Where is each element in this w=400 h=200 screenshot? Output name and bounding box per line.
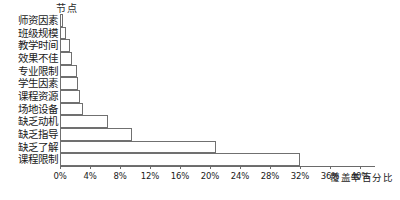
category-label: 班级规模: [2, 27, 60, 40]
bar: [60, 39, 70, 52]
x-tick-mark: [300, 166, 301, 169]
x-tick-label: 8%: [113, 171, 126, 181]
category-label: 课程资源: [2, 90, 60, 103]
category-label: 缺乏了解: [2, 141, 60, 154]
x-tick-mark: [330, 166, 331, 169]
x-tick-mark: [120, 166, 121, 169]
bar: [60, 27, 66, 40]
bar: [60, 153, 300, 166]
category-label: 课程限制: [2, 153, 60, 166]
category-label: 教学时间: [2, 39, 60, 52]
x-tick-mark: [210, 166, 211, 169]
bar: [60, 103, 83, 116]
bar: [60, 115, 108, 128]
x-tick-mark: [150, 166, 151, 169]
bar: [60, 52, 72, 65]
bar: [60, 77, 78, 90]
category-label: 场地设备: [2, 103, 60, 116]
x-tick-mark: [360, 166, 361, 169]
x-tick-label: 24%: [231, 171, 249, 181]
bar: [60, 65, 77, 78]
category-label: 师资因素: [2, 14, 60, 27]
bar: [60, 14, 63, 27]
category-label: 缺乏指导: [2, 128, 60, 141]
x-tick-mark: [270, 166, 271, 169]
x-tick-label: 32%: [291, 171, 309, 181]
x-axis-title: 覆盖率百分比: [330, 170, 393, 184]
bar: [60, 90, 80, 103]
x-tick-mark: [240, 166, 241, 169]
x-tick-label: 16%: [171, 171, 189, 181]
bar-chart: 节点 0%4%8%12%16%20%24%28%32%36%40% 覆盖率百分比…: [0, 0, 400, 200]
x-tick-mark: [90, 166, 91, 169]
x-tick-mark: [180, 166, 181, 169]
x-axis-line: [60, 166, 375, 167]
category-label: 学生因素: [2, 77, 60, 90]
x-tick-label: 4%: [83, 171, 96, 181]
x-tick-label: 12%: [141, 171, 159, 181]
category-label: 专业限制: [2, 65, 60, 78]
x-tick-label: 0%: [53, 171, 66, 181]
x-tick-mark: [60, 166, 61, 169]
y-axis-title: 节点: [56, 0, 78, 15]
category-label: 缺乏动机: [2, 115, 60, 128]
bar: [60, 141, 216, 154]
x-tick-label: 28%: [261, 171, 279, 181]
category-label: 效果不佳: [2, 52, 60, 65]
bar: [60, 128, 132, 141]
x-tick-label: 20%: [201, 171, 219, 181]
plot-area: 0%4%8%12%16%20%24%28%32%36%40%: [60, 14, 375, 166]
